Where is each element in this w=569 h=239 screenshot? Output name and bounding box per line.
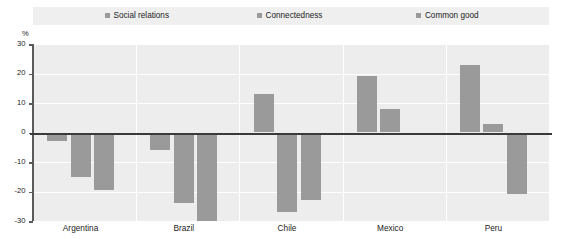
bar: [174, 133, 194, 204]
bar: [483, 124, 503, 133]
bar: [94, 133, 114, 191]
y-axis-tick: 20: [29, 74, 33, 76]
bar: [301, 133, 321, 201]
y-axis-tick-label: 30: [17, 40, 25, 48]
bar: [71, 133, 91, 177]
y-axis-tick-label: -30: [15, 217, 26, 225]
x-axis-category-label: Mexico: [377, 224, 403, 232]
x-axis-category-label: Peru: [485, 224, 503, 232]
legend-swatch-icon: [416, 13, 421, 18]
legend-item-common-good: Common good: [416, 12, 478, 20]
gridline: [33, 44, 549, 45]
y-axis-tick-label: 10: [17, 99, 25, 107]
y-axis-tick: -20: [29, 192, 33, 194]
y-axis-unit-label: %: [22, 30, 29, 38]
y-axis-tick: 10: [29, 103, 33, 105]
y-axis-tick: -30: [29, 221, 33, 223]
y-axis-tick-label: 20: [17, 69, 25, 77]
bar: [507, 133, 527, 195]
x-axis-category-label: Argentina: [63, 224, 99, 232]
y-axis-tick-label: -10: [15, 158, 26, 166]
y-axis-tick-label: 0: [21, 128, 25, 136]
bar: [150, 133, 170, 151]
bar: [380, 109, 400, 133]
bar: [197, 133, 217, 222]
legend-label: Common good: [425, 12, 479, 20]
bar: [277, 133, 297, 213]
gridline: [33, 221, 549, 222]
legend-swatch-icon: [105, 13, 110, 18]
legend-item-connectedness: Connectedness: [257, 12, 322, 20]
chart-plot-area: [33, 44, 549, 221]
zero-baseline: [30, 133, 552, 135]
chart-legend: Social relations Connectedness Common go…: [33, 7, 549, 25]
bar: [254, 94, 274, 132]
x-axis-category-labels: ArgentinaBrazilChileMexicoPeru: [33, 224, 549, 236]
x-axis-category-label: Chile: [278, 224, 297, 232]
legend-label: Connectedness: [266, 12, 323, 20]
legend-label: Social relations: [114, 12, 170, 20]
bar: [460, 65, 480, 133]
x-axis-category-label: Brazil: [173, 224, 194, 232]
bar: [357, 76, 377, 132]
legend-item-social-relations: Social relations: [105, 12, 169, 20]
y-axis-tick: 30: [29, 44, 33, 46]
legend-swatch-icon: [257, 13, 262, 18]
y-axis-tick-label: -20: [15, 187, 26, 195]
y-axis-tick: -10: [29, 162, 33, 164]
